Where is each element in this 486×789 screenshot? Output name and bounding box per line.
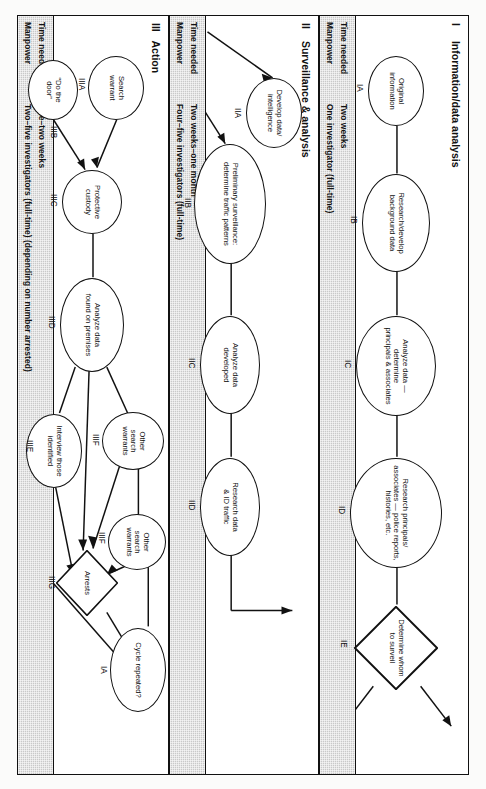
node-label-IB: IB: [349, 216, 358, 224]
node-label-IIIF-upper: IIIF: [97, 532, 106, 544]
node-IIA-text: Develop data/intelligence: [265, 89, 283, 136]
node-label-IIC: IIC: [187, 358, 196, 368]
node-IIB[interactable]: Preliminary surveillance:determine traff…: [194, 144, 266, 264]
node-ID[interactable]: Research principals/associates — police …: [350, 458, 442, 568]
node-label-IIID: IIID: [47, 316, 56, 329]
node-IIIC[interactable]: Protectivecustody: [62, 170, 122, 234]
node-label-IID: IID: [187, 500, 196, 510]
node-IB-text: Research/developbackground data: [387, 192, 405, 253]
node-IA[interactable]: Originalinformation: [368, 56, 424, 126]
node-label-IIA: IIA: [233, 108, 242, 118]
node-IID-text: Research data& ID traffic: [221, 482, 239, 531]
node-ID-text: Research principals/associates — police …: [383, 465, 410, 560]
node-IC-text: Analyze data —determineprincipals & asso…: [383, 327, 410, 404]
node-IC[interactable]: Analyze data —determineprincipals & asso…: [356, 316, 436, 416]
node-IIIC-text: Protectivecustody: [83, 185, 101, 219]
node-label-IIIG: IIIG: [47, 576, 56, 589]
node-IIID[interactable]: Analyze datafound on premises: [60, 278, 124, 372]
node-label-IIIE: IIIE: [25, 440, 34, 452]
node-IIID-text: Analyze datafound on premises: [83, 293, 101, 355]
manpower-label-2: Manpower: [175, 22, 185, 64]
node-IIIB[interactable]: “Do thedoor”: [28, 60, 78, 120]
node-label-IA: IA: [355, 84, 364, 92]
node-cycle-repeated[interactable]: Cycle repeated?: [110, 628, 166, 712]
manpower-value-1: One investigator (full-time): [325, 104, 335, 213]
time-needed-label-1: Time needed: [339, 22, 349, 74]
page-canvas: I Information/data analysis: [0, 0, 486, 789]
node-IIIF-lower-text: Othersearchwarrants: [120, 426, 147, 455]
node-IB[interactable]: Research/developbackground data: [362, 174, 430, 272]
node-label-IIIF-lower: IIIF: [91, 434, 100, 446]
node-IID[interactable]: Research data& ID traffic: [200, 458, 260, 556]
node-IIIE[interactable]: Interview thoseidentified: [26, 414, 82, 488]
node-IIIE-text: Interview thoseidentified: [45, 425, 63, 476]
section-information-data-analysis: I Information/data analysis: [319, 15, 469, 775]
manpower-value-2: Four–five investigators (full-time): [175, 104, 185, 240]
node-label-IE: IE: [339, 640, 348, 648]
node-IE-text: Determine whomto surveil: [387, 619, 405, 676]
node-IA-text: Originalinformation: [387, 72, 405, 110]
node-label-IIIB: IIIB: [49, 126, 58, 138]
manpower-label-1: Manpower: [325, 22, 335, 64]
resources-row-2: Time needed Manpower Two weeks–one month…: [170, 16, 206, 774]
node-IIIA-text: Searchwarrant: [107, 75, 125, 100]
node-label-ID: ID: [337, 506, 346, 514]
node-label-IC: IC: [343, 360, 352, 368]
flowchart-stage: I Information/data analysis: [17, 15, 469, 775]
time-needed-label-2: Time needed: [189, 22, 199, 74]
node-cycle-repeated-text: Cycle repeated?: [134, 642, 143, 697]
node-IIIG[interactable]: Arrests: [56, 550, 118, 616]
node-IIB-text: Preliminary surveillance:determine traff…: [221, 162, 239, 246]
manpower-value-3: Two–five investigators (full-time) (depe…: [23, 104, 33, 372]
node-label-IIIA: IIIA: [77, 78, 86, 90]
node-label-IIIC: IIIC: [49, 194, 58, 207]
manpower-label-3: Manpower: [23, 22, 33, 64]
resources-row-1: Time needed Manpower Two weeks One inves…: [320, 16, 356, 774]
node-IIA[interactable]: Develop data/intelligence: [246, 78, 302, 148]
node-IIIG-text: Arrests: [83, 570, 92, 594]
node-IIIF-upper-text: Othersearchwarrants: [124, 527, 151, 556]
node-label-IIB: IIB: [183, 198, 192, 208]
node-IIIB-text: “Do thedoor”: [44, 77, 62, 102]
node-IIC[interactable]: Analyze datadeveloped: [200, 316, 260, 414]
section-surveillance-analysis: II Surveillance & analysis: [169, 15, 319, 775]
time-needed-value-1: Two weeks: [339, 104, 349, 149]
node-label-cycle-repeated: IA: [99, 666, 108, 674]
section-action: III Action: [17, 15, 169, 775]
node-IE[interactable]: Determine whomto surveil: [354, 606, 438, 690]
node-IIC-text: Analyze datadeveloped: [221, 343, 239, 387]
node-IIIA[interactable]: Searchwarrant: [88, 56, 144, 120]
node-IIIF-lower[interactable]: Othersearchwarrants: [102, 412, 164, 470]
